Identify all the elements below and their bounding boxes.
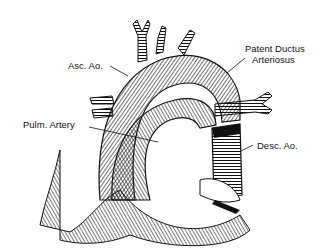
- label-asc-ao: Asc. Ao.: [68, 60, 103, 71]
- label-pulm-artery: Pulm. Artery: [23, 119, 75, 130]
- label-pda-line1: Patent Ductus: [245, 43, 305, 54]
- label-pda-line2: Arteriosus: [252, 54, 295, 65]
- label-desc-ao: Desc. Ao.: [257, 140, 298, 151]
